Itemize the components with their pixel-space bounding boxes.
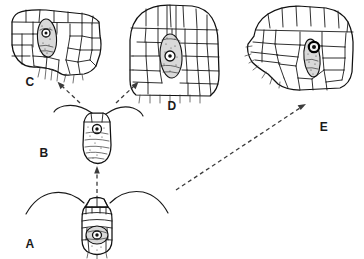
panel-label-d: D [168,99,177,113]
panel-label-e: E [320,120,328,134]
panel-label-a: A [26,237,35,251]
developmental-series-figure: C [0,0,364,259]
panel-label-b: B [40,146,49,160]
figure-root: C [0,0,364,259]
panel-label-c: C [26,75,35,89]
